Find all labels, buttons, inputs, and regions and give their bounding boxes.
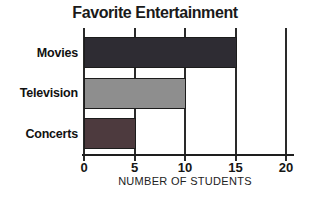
x-axis-line <box>82 154 294 156</box>
gridline-20 <box>285 28 287 161</box>
chart-title: Favorite Entertainment <box>0 4 310 22</box>
bar-concerts <box>84 118 136 149</box>
x-tick-label-20: 20 <box>273 160 299 175</box>
category-label-television: Television <box>0 78 78 109</box>
x-tick-label-15: 15 <box>223 160 249 175</box>
x-tick-label-0: 0 <box>71 160 97 175</box>
x-tick-label-10: 10 <box>172 160 198 175</box>
category-label-concerts: Concerts <box>0 118 78 149</box>
bar-chart: Favorite Entertainment 05101520MoviesTel… <box>0 0 310 200</box>
x-tick-label-5: 5 <box>122 160 148 175</box>
category-label-movies: Movies <box>0 37 78 68</box>
x-axis-label: NUMBER OF STUDENTS <box>84 175 286 187</box>
bar-movies <box>84 37 237 68</box>
bar-television <box>84 78 186 109</box>
